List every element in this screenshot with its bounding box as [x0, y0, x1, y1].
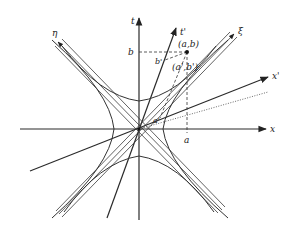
xi-label: ξ [238, 26, 244, 36]
event-point [185, 50, 189, 54]
t-prime-axis-label: t' [180, 27, 186, 37]
x-prime-axis-label: x' [272, 71, 280, 81]
b-prime-dashed-line [165, 52, 187, 60]
x-prime-axis [30, 77, 268, 171]
b-prime-tick-label: b' [155, 57, 162, 66]
eta-label: η [52, 28, 58, 38]
a-tick-label: a [184, 135, 189, 145]
point-prime-label: (a',b') [172, 62, 198, 72]
x-axis-label: x [270, 124, 275, 134]
t-axis-label: t [131, 16, 135, 26]
b-tick-label: b [128, 47, 134, 57]
spacetime-diagram: x t t' x' ξ η (a,b) (a',b') b b' a a' [0, 0, 294, 235]
point-label: (a,b) [178, 39, 199, 49]
a-prime-tick-label: a' [153, 116, 160, 125]
origin-point [137, 127, 140, 130]
